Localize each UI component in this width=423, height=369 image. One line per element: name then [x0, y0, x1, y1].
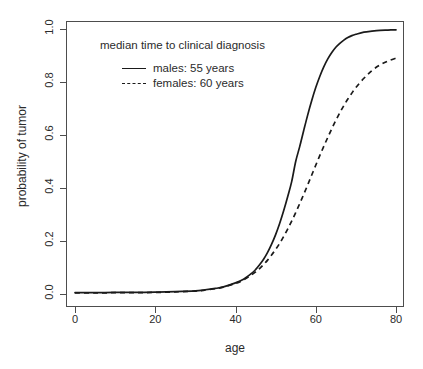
x-tick-label: 20	[135, 313, 175, 325]
x-tick-label: 0	[55, 313, 95, 325]
legend-label-females: females: 60 years	[153, 77, 244, 89]
x-tick-label: 40	[216, 313, 256, 325]
y-tick-mark	[60, 241, 66, 242]
x-axis-title: age	[66, 341, 404, 355]
y-tick-label: 1.0	[0, 21, 56, 33]
legend-item-males: males: 55 years	[122, 60, 265, 75]
y-tick-mark	[60, 82, 66, 83]
legend-item-females: females: 60 years	[122, 75, 265, 90]
y-tick-label: 0.0	[0, 286, 56, 298]
legend: median time to clinical diagnosis males:…	[100, 39, 265, 90]
x-tick-label: 60	[296, 313, 336, 325]
x-tick-label: 80	[376, 313, 416, 325]
legend-key-dashed-line-icon	[122, 78, 146, 88]
y-tick-mark	[60, 29, 66, 30]
legend-label-males: males: 55 years	[153, 62, 234, 74]
tumor-probability-chart: 020406080 0.00.20.40.60.81.0 age probabi…	[0, 0, 423, 369]
y-tick-mark	[60, 135, 66, 136]
legend-title: median time to clinical diagnosis	[100, 39, 265, 51]
legend-key-solid-line-icon	[122, 63, 146, 73]
y-tick-mark	[60, 294, 66, 295]
y-tick-mark	[60, 188, 66, 189]
y-axis-title: probability of tumor	[15, 76, 29, 236]
